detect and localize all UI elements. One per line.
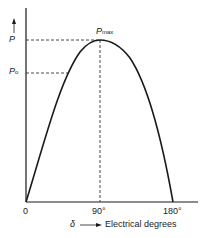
- x-axis-label: Electrical degrees: [105, 220, 177, 229]
- p0-label: Po: [9, 67, 18, 76]
- p-axis-label: P: [9, 35, 15, 44]
- tick-label-origin: 0: [23, 207, 28, 216]
- delta-symbol: δ: [70, 220, 75, 229]
- tick-label-90: 90°: [92, 207, 106, 216]
- right-arrow-icon: [80, 223, 102, 227]
- power-curve: [26, 40, 173, 202]
- p0-label-sub: o: [15, 69, 18, 75]
- tick-label-180: 180°: [163, 207, 182, 216]
- pmax-label: Pmax: [96, 27, 113, 36]
- up-arrow-icon: [12, 18, 16, 33]
- pmax-label-sub: max: [102, 29, 113, 35]
